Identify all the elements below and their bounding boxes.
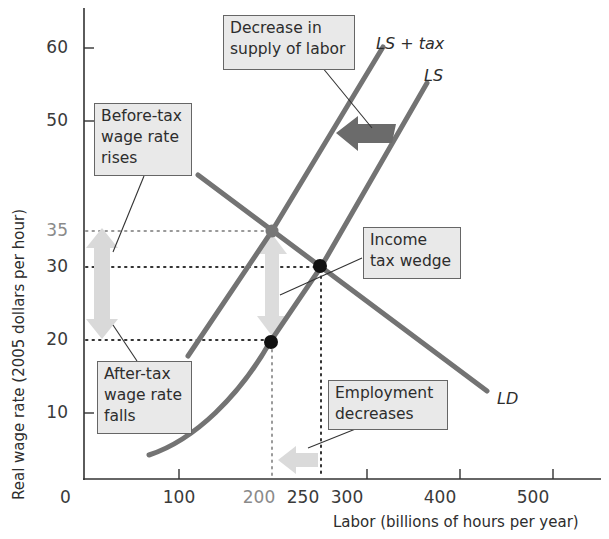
x-ticks: [179, 469, 553, 479]
box-line: Income: [370, 230, 454, 251]
box-line: decreases: [335, 404, 441, 425]
guide-lines: [86, 231, 321, 478]
ls-label: LS: [424, 66, 443, 85]
box-line: wage rate: [104, 385, 185, 406]
labor-market-chart: [0, 0, 609, 539]
income-tax-wedge-box: Income tax wedge: [363, 227, 461, 279]
box-line: tax wedge: [370, 251, 454, 272]
box-line: falls: [104, 406, 185, 427]
x-tick-label: 500: [513, 487, 553, 507]
x-tick-label: 250: [283, 487, 323, 507]
y-tick-label: 20: [28, 329, 68, 349]
wedge-double-arrow-left: [86, 228, 118, 339]
y-tick-label: 30: [28, 256, 68, 276]
point-equilibrium: [313, 259, 327, 273]
point-before-tax: [266, 225, 279, 238]
y-tick-label: 10: [28, 402, 68, 422]
x-tick-label: 100: [159, 487, 199, 507]
x-tick-label: 300: [327, 487, 367, 507]
y-tick-label: 60: [28, 37, 68, 57]
box-line: After-tax: [104, 364, 185, 385]
x-tick-label: 400: [420, 487, 460, 507]
origin-label: 0: [60, 487, 71, 507]
box-line: supply of labor: [230, 39, 348, 60]
ld-curve: [198, 175, 487, 391]
box-line: Employment: [335, 383, 441, 404]
y-tick-label: 35: [28, 220, 68, 240]
after-tax-box: After-tax wage rate falls: [97, 361, 192, 434]
before-tax-box: Before-tax wage rate rises: [94, 103, 192, 176]
point-after-tax: [264, 335, 278, 349]
ld-label: LD: [497, 389, 518, 408]
decrease-supply-box: Decrease in supply of labor: [223, 15, 355, 70]
ls-tax-curve: [188, 47, 383, 356]
x-axis-title: Labor (billions of hours per year): [333, 513, 579, 531]
x-tick-label: 200: [239, 487, 279, 507]
box-line: rises: [101, 148, 185, 169]
y-axis-title: Real wage rate (2005 dollars per hour): [10, 209, 28, 500]
ls-tax-label: LS + tax: [376, 34, 444, 53]
y-tick-label: 50: [28, 110, 68, 130]
employment-decreases-box: Employment decreases: [328, 380, 448, 430]
employment-decrease-arrow: [278, 446, 318, 474]
box-line: Before-tax: [101, 106, 185, 127]
box-line: Decrease in: [230, 18, 348, 39]
box-line: wage rate: [101, 127, 185, 148]
